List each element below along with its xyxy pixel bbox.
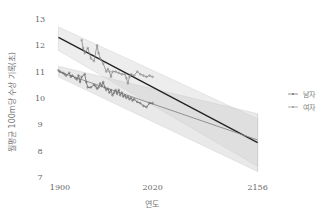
y-tick-label: 8 [37,147,42,156]
y-tick-label: 10 [35,94,45,103]
legend-label-male: 남자 [303,90,316,99]
legend-label-female: 여자 [303,103,316,112]
y-tick-label: 12 [35,41,45,50]
x-axis-ticks: 190020202156 [50,183,268,192]
legend: 남자 여자 [288,90,316,112]
y-tick-label: 11 [35,68,45,77]
line-chart: 78910111213 190020202156 연도 월평균 100m당 수상… [0,0,333,220]
y-tick-label: 9 [37,120,42,129]
y-tick-label: 13 [35,15,45,24]
x-axis-label: 연도 [145,200,159,209]
legend-item-male: 남자 [288,90,316,99]
legend-item-female: 여자 [288,103,316,112]
x-tick-label: 2020 [142,183,162,192]
x-tick-label: 2156 [247,183,267,192]
y-axis-ticks: 78910111213 [35,15,45,182]
x-tick-label: 1900 [50,183,70,192]
y-axis-label: 월평균 100m당 수상 기록(초) [7,52,17,152]
y-tick-label: 7 [37,173,42,182]
